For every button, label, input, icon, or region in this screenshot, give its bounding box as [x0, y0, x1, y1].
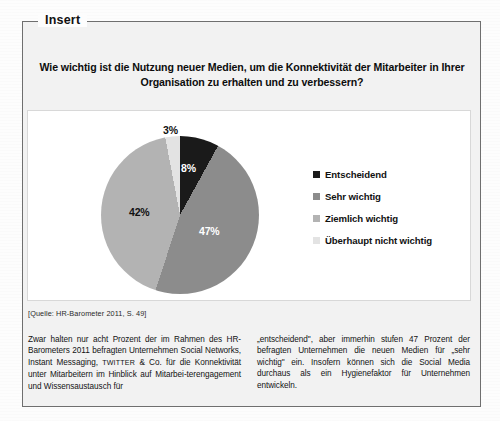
legend-swatch-icon-2 — [313, 215, 320, 222]
pie-slice-label-3: 3% — [163, 124, 178, 136]
chart-question-title: Wie wichtig ist die Nutzung neuer Medien… — [32, 60, 472, 89]
insert-box-title: Insert — [38, 13, 87, 27]
legend-item-ueberhaupt-nicht-wichtig: Überhaupt nicht wichtig — [313, 234, 463, 246]
body-left-twitter: TWITTER — [102, 359, 135, 367]
legend-swatch-icon-0 — [313, 171, 320, 178]
legend-item-ziemlich-wichtig: Ziemlich wichtig — [313, 212, 463, 224]
legend-item-entscheidend: Entscheidend — [313, 168, 463, 180]
legend-label-3: Überhaupt nicht wichtig — [325, 235, 432, 246]
legend-swatch-icon-1 — [313, 193, 320, 200]
pie-graphic — [101, 136, 259, 294]
legend-item-sehr-wichtig: Sehr wichtig — [313, 190, 463, 202]
chart-legend: Entscheidend Sehr wichtig Ziemlich wicht… — [313, 168, 463, 256]
legend-label-1: Sehr wichtig — [325, 191, 381, 202]
pie-chart: 3% 8% 47% 42% — [101, 126, 269, 294]
pie-slice-label-47: 47% — [199, 225, 219, 237]
legend-swatch-icon-3 — [313, 237, 320, 244]
legend-label-0: Entscheidend — [325, 169, 387, 180]
pie-slice-label-42: 42% — [129, 206, 149, 218]
body-text-left-column: Zwar halten nur acht Prozent der im Rahm… — [28, 334, 241, 392]
chart-panel: 3% 8% 47% 42% Entscheidend Sehr wichtig … — [27, 110, 471, 301]
chart-source-note: [Quelle: HR-Barometer 2011, S. 49] — [28, 309, 146, 318]
pie-slice-label-8: 8% — [181, 162, 196, 174]
body-text-columns: Zwar halten nur acht Prozent der im Rahm… — [28, 334, 470, 392]
legend-label-2: Ziemlich wichtig — [325, 213, 398, 224]
body-text-right-column: „entscheidend", aber immerhin stufen 47 … — [257, 334, 470, 392]
